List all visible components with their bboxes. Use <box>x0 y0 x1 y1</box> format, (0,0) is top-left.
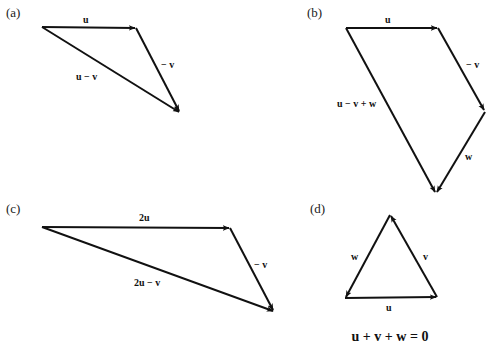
vector-2u-minus-v-arrow <box>42 227 273 311</box>
vector-2u-arrow <box>42 227 229 228</box>
vector-v-arrow <box>391 216 437 297</box>
panel-c-label: (c) <box>6 201 20 216</box>
vector-u-arrow <box>42 27 135 28</box>
panel-b-label: (b) <box>307 5 322 20</box>
vector-2u-minus-v-label: 2u − v <box>134 277 160 288</box>
vector-w-arrow <box>437 112 485 192</box>
vector-w-label: w <box>465 151 473 162</box>
vector-2u-label: 2u <box>139 212 150 223</box>
panel-c: (c) 2u − v 2u − v <box>6 201 273 311</box>
vector-u-label: u <box>83 14 89 25</box>
panel-b: (b) u − v w u − v + w <box>307 5 485 192</box>
vector-u-minus-v-plus-w-label: u − v + w <box>337 98 377 109</box>
vector-u-minus-v-label: u − v <box>76 71 97 82</box>
vector-u-minus-v-plus-w-arrow <box>346 28 435 192</box>
panel-a: (a) u − v u − v <box>6 5 179 112</box>
vector-v-label: v <box>423 251 428 262</box>
vector-w-label: w <box>351 251 359 262</box>
vector-u-arrow <box>345 297 436 298</box>
vector-u-label: u <box>386 302 392 313</box>
vector-diagram-figure: (a) u − v u − v (b) u − v w u − v + w (c… <box>0 0 493 349</box>
panel-a-label: (a) <box>6 5 20 20</box>
panel-d: (d) u v w u + v + w = 0 <box>310 201 437 344</box>
vector-u-label: u <box>385 14 391 25</box>
panel-d-label: (d) <box>310 201 325 216</box>
vector-neg-v-label: − v <box>466 59 479 70</box>
vector-sum-equation: u + v + w = 0 <box>352 329 429 344</box>
vector-neg-v-label: − v <box>161 59 174 70</box>
vector-neg-v-label: − v <box>254 259 267 270</box>
